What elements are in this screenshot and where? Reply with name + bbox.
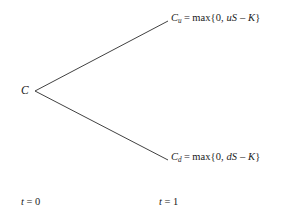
up-node-comma: ,: [221, 12, 224, 23]
binomial-tree-diagram: C Cu = max{0, uS – K} Cd = max{0, dS – K…: [0, 0, 292, 223]
up-node-close-brace: }: [255, 12, 260, 23]
time-label-start: t = 0: [21, 197, 40, 208]
time-end-variable: t: [159, 196, 162, 207]
up-node-function: max: [192, 12, 210, 23]
down-node-equals: =: [184, 151, 190, 162]
down-node-spot: S: [232, 151, 237, 162]
time-start-equals: =: [27, 196, 33, 207]
down-node-minus: –: [240, 151, 245, 162]
time-end-value: 1: [173, 196, 178, 207]
time-start-variable: t: [21, 196, 24, 207]
down-node-close-brace: }: [255, 151, 260, 162]
root-node-label: C: [21, 85, 29, 97]
down-node-comma: ,: [221, 151, 224, 162]
time-end-equals: =: [165, 196, 171, 207]
down-node-subscript: d: [178, 156, 182, 164]
down-branch-line: [35, 91, 168, 160]
time-label-end: t = 1: [159, 197, 178, 208]
down-node-payoff-label: Cd = max{0, dS – K}: [171, 152, 260, 163]
up-branch-line: [35, 21, 168, 91]
up-node-minus: –: [240, 12, 245, 23]
down-node-function: max: [192, 151, 210, 162]
up-node-spot: S: [232, 12, 237, 23]
time-start-value: 0: [35, 196, 40, 207]
up-node-subscript: u: [178, 17, 182, 25]
up-node-equals: =: [184, 12, 190, 23]
up-node-payoff-label: Cu = max{0, uS – K}: [171, 13, 260, 24]
branch-lines-group: [0, 0, 292, 223]
